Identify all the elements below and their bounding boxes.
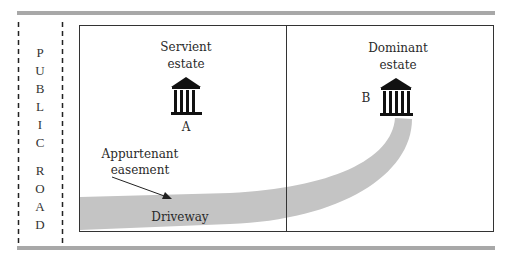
building-icon	[171, 77, 202, 115]
road-letter: P	[30, 45, 50, 61]
building-icon	[380, 78, 413, 116]
road-letter: L	[30, 99, 50, 115]
dominant-marker: B	[356, 90, 376, 106]
diagram-canvas	[0, 0, 511, 253]
driveway-label: Driveway	[140, 209, 220, 225]
road-letter: U	[30, 63, 50, 79]
dominant-title: Dominant	[363, 40, 433, 56]
top-rule	[17, 11, 495, 15]
servient-marker: A	[176, 119, 196, 135]
road-letter: B	[30, 81, 50, 97]
servient-title: Servient	[156, 39, 216, 55]
road-letter: O	[30, 181, 50, 197]
road-letter: D	[30, 217, 50, 233]
bottom-rule	[17, 246, 495, 250]
servient-subtitle: estate	[156, 56, 216, 72]
road-letter: A	[30, 199, 50, 215]
easement-sublabel: easement	[100, 162, 180, 178]
easement-label: Appurtenant	[100, 146, 180, 162]
easement-arrow	[112, 177, 167, 197]
dominant-subtitle: estate	[363, 57, 433, 73]
road-letter: I	[30, 117, 50, 133]
road-letter: C	[30, 135, 50, 151]
road-letter: R	[30, 163, 50, 179]
